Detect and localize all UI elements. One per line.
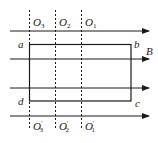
coil-loop-abcd xyxy=(30,45,132,102)
axis-labels-bottom: O′3 O′2 O′1 xyxy=(33,119,95,134)
rotation-axes xyxy=(30,10,82,130)
label-o1: O1 xyxy=(85,16,97,30)
corner-label-a: a xyxy=(18,38,24,50)
corner-label-c: c xyxy=(135,97,140,109)
label-o3: O3 xyxy=(33,16,45,30)
label-o1-prime: O′1 xyxy=(85,119,95,134)
corner-label-d: d xyxy=(18,95,24,107)
label-o2: O2 xyxy=(59,16,71,30)
label-o2-prime: O′2 xyxy=(59,119,69,134)
magnetic-field-lines xyxy=(10,31,149,116)
field-label-b: B xyxy=(146,45,153,57)
magnetic-field-loop-diagram: a b c d B O3 O2 O1 O′3 O′2 O′1 xyxy=(0,0,158,143)
corner-label-b: b xyxy=(134,38,140,50)
axis-labels-top: O3 O2 O1 xyxy=(33,16,97,30)
label-o3-prime: O′3 xyxy=(33,119,43,134)
